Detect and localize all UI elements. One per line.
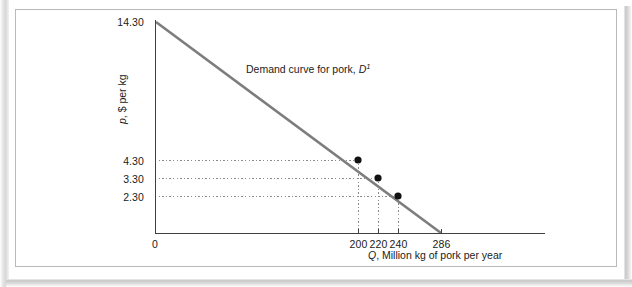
demand-curve-annotation: Demand curve for pork, D1 — [246, 63, 370, 75]
demand-curve-line — [156, 22, 441, 233]
chart-canvas — [0, 0, 632, 287]
y-tick-label-330: 3.30 — [104, 173, 144, 185]
demand-curve-annotation-text: Demand curve for pork, — [246, 63, 359, 75]
data-point-c — [394, 192, 401, 199]
data-point-a — [354, 156, 361, 163]
x-axis-title: Q, Million kg of pork per year — [368, 249, 502, 261]
demand-curve-annotation-superscript: 1 — [366, 62, 370, 71]
y-tick-label-430: 4.30 — [104, 155, 144, 167]
x-tick-label-origin: 0 — [141, 238, 169, 250]
x-axis-title-symbol: Q — [368, 249, 376, 261]
x-axis-title-rest: , Million kg of pork per year — [376, 249, 502, 261]
guide-lines-horizontal — [155, 161, 398, 197]
x-axis-ticks — [359, 229, 442, 233]
y-axis-title: p, $ per kg — [116, 74, 128, 124]
y-tick-label-1430: 14.30 — [96, 16, 144, 28]
data-point-b — [374, 174, 381, 181]
figure-root: 14.30 4.30 3.30 2.30 0 200 220 240 286 p… — [0, 0, 632, 287]
y-tick-label-230: 2.30 — [104, 191, 144, 203]
demand-curve-chart: 14.30 4.30 3.30 2.30 0 200 220 240 286 p… — [0, 0, 632, 287]
y-axis-title-rest: , $ per kg — [116, 74, 128, 118]
y-axis-title-symbol: p — [116, 118, 128, 124]
